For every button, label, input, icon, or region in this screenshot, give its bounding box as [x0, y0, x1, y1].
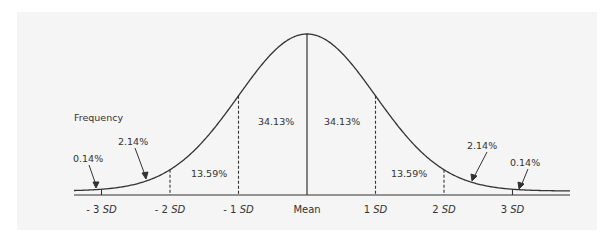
arrow-right-2sd	[474, 152, 487, 177]
x-tick-label: - 1 SD	[223, 204, 254, 215]
x-tick-label: 3 SD	[501, 204, 525, 215]
arrow-head-icon	[518, 182, 524, 189]
arrow-head-icon	[93, 182, 99, 188]
region-label-left-34: 34.13%	[258, 116, 294, 127]
region-label-left-2sd: 2.14%	[118, 136, 148, 147]
x-tick-label: - 2 SD	[155, 204, 186, 215]
bell-curve	[74, 34, 570, 191]
normal-distribution-diagram: 0.14% 2.14% 13.59% 34.13% 34.13% 13.59% …	[0, 0, 612, 243]
region-label-left-tail: 0.14%	[73, 153, 103, 164]
x-tick-label: 1 SD	[364, 204, 388, 215]
x-tick-labels: - 3 SD- 2 SD- 1 SDMean1 SD2 SD3 SD	[86, 204, 524, 215]
region-label-right-13: 13.59%	[391, 168, 427, 179]
x-tick-label: - 3 SD	[86, 204, 117, 215]
frequency-label: Frequency	[74, 112, 123, 123]
arrow-left-2sd	[135, 148, 145, 175]
x-tick-label: 2 SD	[432, 204, 456, 215]
region-label-right-2sd: 2.14%	[467, 140, 497, 151]
arrow-head-icon	[142, 172, 148, 179]
arrow-head-icon	[471, 174, 477, 181]
region-label-right-34: 34.13%	[324, 116, 360, 127]
x-tick-label: Mean	[293, 204, 320, 215]
region-label-left-13: 13.59%	[191, 168, 227, 179]
arrows	[89, 148, 528, 189]
region-label-right-tail: 0.14%	[510, 157, 540, 168]
